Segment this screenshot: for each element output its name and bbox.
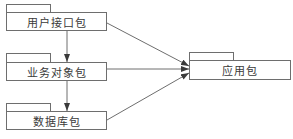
package-label: 用户接口包 xyxy=(27,14,87,30)
arrow-ui-to-application xyxy=(107,23,189,66)
package-body: 数据库包 xyxy=(6,111,107,130)
package-label: 数据库包 xyxy=(33,113,81,129)
arrow-database-to-application xyxy=(107,73,189,120)
package-body: 应用包 xyxy=(189,60,291,80)
package-body: 用户接口包 xyxy=(6,12,107,31)
package-body: 业务对象包 xyxy=(6,62,107,81)
package-label: 业务对象包 xyxy=(27,64,87,80)
package-label: 应用包 xyxy=(222,62,258,78)
